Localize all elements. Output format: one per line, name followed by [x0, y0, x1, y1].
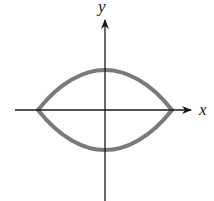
x-axis-label: x: [198, 100, 207, 119]
y-axis-label: y: [96, 0, 106, 16]
diagram-canvas: x y: [0, 0, 214, 201]
